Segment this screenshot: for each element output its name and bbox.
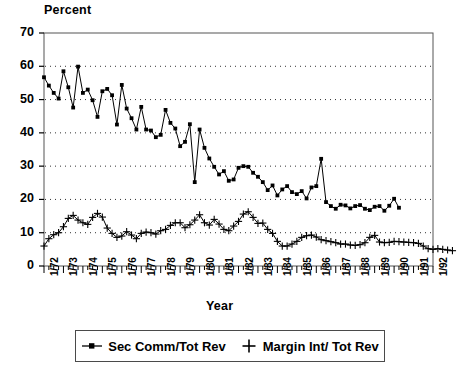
x-tick-1-77: 1/77 — [146, 257, 157, 276]
x-tick-1-75: 1/75 — [107, 257, 118, 276]
legend-label-margin-int: Margin Int/ Tot Rev — [263, 339, 379, 354]
x-tick-1-80: 1/80 — [205, 257, 216, 276]
x-tick-1-87: 1/87 — [341, 257, 352, 276]
legend-item-sec-comm: Sec Comm/Tot Rev — [81, 339, 226, 354]
x-tick-1-89: 1/89 — [380, 257, 391, 276]
x-tick-1-85: 1/85 — [302, 257, 313, 276]
y-tick-40: 40 — [8, 125, 34, 139]
series-margin-int — [40, 208, 456, 254]
x-tick-1-82: 1/82 — [244, 257, 255, 276]
chart-legend: Sec Comm/Tot Rev Margin Int/ Tot Rev — [75, 330, 385, 362]
x-tick-1-83: 1/83 — [263, 257, 274, 276]
y-tick-10: 10 — [8, 225, 34, 239]
x-tick-1-86: 1/86 — [321, 257, 332, 276]
x-tick-1-92: 1/92 — [438, 257, 449, 276]
y-tick-70: 70 — [8, 25, 34, 39]
x-tick-1-91: 1/91 — [419, 257, 430, 276]
x-tick-1-90: 1/90 — [399, 257, 410, 276]
y-tick-0: 0 — [8, 258, 34, 272]
y-tick-60: 60 — [8, 58, 34, 72]
x-tick-1-81: 1/81 — [224, 257, 235, 276]
legend-label-sec-comm: Sec Comm/Tot Rev — [108, 339, 226, 354]
chart-container: Percent Year 010203040506070 1/721/731/7… — [0, 0, 469, 377]
plot-area — [0, 0, 469, 377]
x-tick-1-72: 1/72 — [49, 257, 60, 276]
x-tick-1-88: 1/88 — [360, 257, 371, 276]
x-tick-1-73: 1/73 — [68, 257, 79, 276]
x-tick-1-84: 1/84 — [282, 257, 293, 276]
x-tick-1-78: 1/78 — [166, 257, 177, 276]
y-tick-50: 50 — [8, 92, 34, 106]
series-sec-comm — [42, 65, 401, 213]
x-tick-1-74: 1/74 — [88, 257, 99, 276]
plus-marker-icon — [240, 338, 258, 354]
x-tick-1-79: 1/79 — [185, 257, 196, 276]
x-tick-1-76: 1/76 — [127, 257, 138, 276]
y-tick-30: 30 — [8, 158, 34, 172]
legend-item-margin-int: Margin Int/ Tot Rev — [240, 338, 379, 354]
y-tick-20: 20 — [8, 191, 34, 205]
filled-square-marker-icon — [81, 340, 103, 352]
